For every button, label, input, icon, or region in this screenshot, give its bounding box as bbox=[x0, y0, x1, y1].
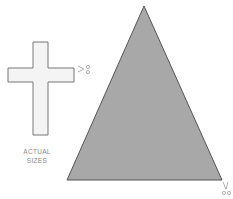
diagram-canvas bbox=[0, 0, 233, 199]
triangle-shape bbox=[67, 6, 222, 180]
cross-shape bbox=[8, 42, 74, 135]
caption-line-1: ACTUAL bbox=[14, 147, 60, 156]
scissors-icon bbox=[222, 182, 230, 195]
scissors-icon bbox=[78, 65, 90, 73]
caption-line-2: SIZES bbox=[14, 156, 60, 165]
actual-sizes-caption: ACTUAL SIZES bbox=[14, 147, 60, 165]
